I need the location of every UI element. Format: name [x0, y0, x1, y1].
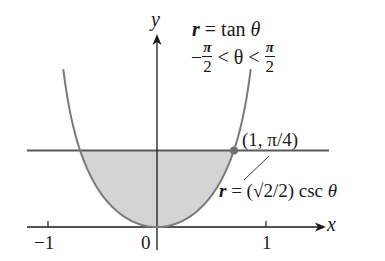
- curve1-theta: θ: [251, 18, 261, 40]
- domain-upper-fraction: π 2: [265, 40, 275, 75]
- x-tick-label-0: 0: [141, 232, 151, 254]
- x-axis-label: x: [327, 213, 336, 236]
- domain-lower-two: 2: [202, 57, 212, 75]
- domain-inequality: < θ <: [212, 46, 264, 69]
- y-axis-label: y: [151, 8, 160, 31]
- domain-lower-fraction: π 2: [202, 40, 212, 75]
- domain-minus: −: [191, 46, 202, 69]
- curve1-domain: − π 2 < θ < π 2: [191, 40, 275, 75]
- label-leader-line: [244, 156, 269, 180]
- curve2-eq-text: = (√2/2) csc: [226, 180, 327, 201]
- intersection-label: (1, π/4): [242, 129, 298, 151]
- curve1-equation: r = tan θ: [192, 18, 260, 41]
- curve1-eq-text: = tan: [200, 18, 251, 40]
- curve2-theta: θ: [328, 180, 337, 201]
- domain-upper-pi: π: [265, 40, 275, 57]
- domain-upper-two: 2: [265, 57, 275, 75]
- curve2-equation: r = (√2/2) csc θ: [219, 180, 337, 202]
- domain-lower-pi: π: [202, 40, 212, 57]
- curve1-r: r: [192, 18, 200, 40]
- x-tick-label-1: 1: [262, 232, 272, 254]
- x-tick-label-neg1: −1: [34, 232, 54, 254]
- polar-area-figure: y x −1 0 1 r = tan θ − π 2 < θ < π 2 (1,…: [0, 0, 385, 261]
- intersection-point: [230, 147, 238, 155]
